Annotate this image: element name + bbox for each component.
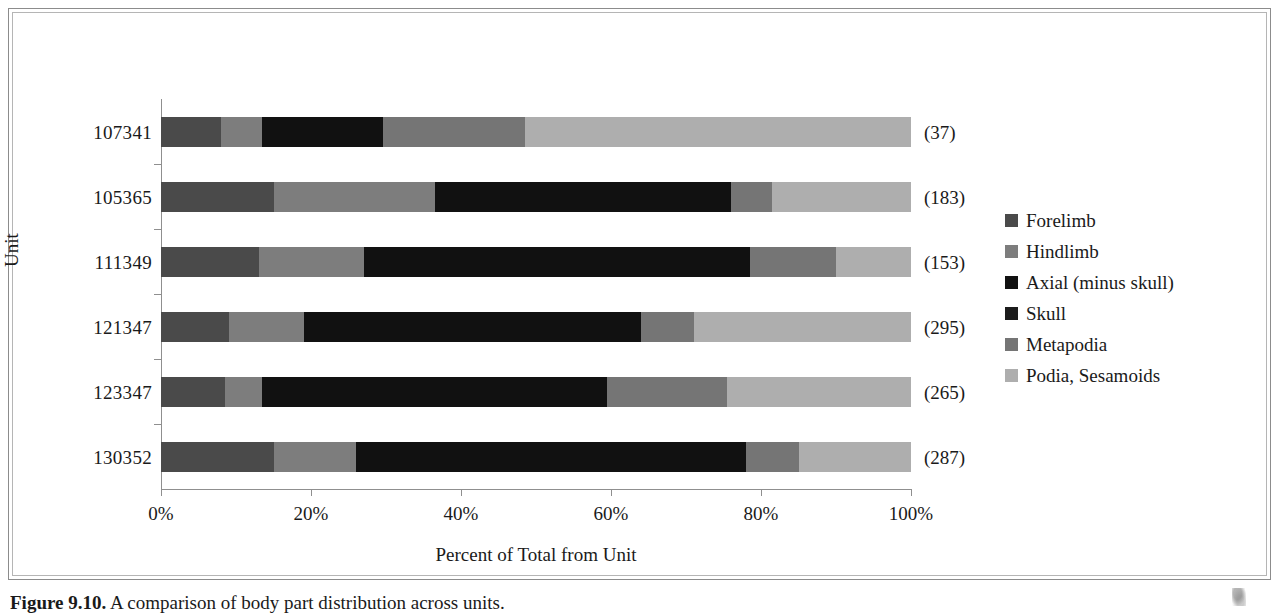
bar-segment (262, 377, 607, 407)
legend-swatch-icon (1005, 245, 1018, 258)
bar-row (161, 442, 911, 472)
bar-total-label: (153) (924, 253, 965, 272)
bar-segment (364, 247, 750, 277)
x-axis-line (161, 489, 912, 490)
bar-row (161, 182, 911, 212)
legend-swatch-icon (1005, 307, 1018, 320)
x-axis-tick-label: 60% (571, 503, 651, 525)
y-axis-tick-labels: 107341105365111349121347123347130352 (44, 99, 152, 489)
bar-segment (161, 312, 229, 342)
legend-item: Forelimb (1005, 205, 1255, 236)
y-axis-tick (154, 164, 162, 165)
y-axis-tick-label: 111349 (52, 253, 152, 272)
legend-label: Skull (1026, 304, 1066, 323)
bar-segment (525, 117, 911, 147)
legend-label: Hindlimb (1026, 242, 1099, 261)
x-axis-tick-label: 20% (271, 503, 351, 525)
bar-segment (221, 117, 262, 147)
x-axis-tick (311, 489, 312, 496)
legend-item: Metapodia (1005, 329, 1255, 360)
legend-label: Metapodia (1026, 335, 1107, 354)
bar-segment (694, 312, 912, 342)
y-axis-tick-label: 130352 (52, 448, 152, 467)
y-axis-tick (154, 294, 162, 295)
bar-row (161, 117, 911, 147)
bar-segment (641, 312, 694, 342)
y-axis-tick (154, 359, 162, 360)
bar-segment (225, 377, 263, 407)
y-axis-tick (154, 424, 162, 425)
bar-total-label: (37) (924, 123, 956, 142)
x-axis-tick-label: 80% (721, 503, 801, 525)
bar-row (161, 247, 911, 277)
legend-label: Forelimb (1026, 211, 1096, 230)
x-axis-tick-label: 0% (121, 503, 201, 525)
bar-segment (356, 442, 746, 472)
bar-segment (750, 247, 836, 277)
bar-segment (772, 182, 911, 212)
legend-swatch-icon (1005, 276, 1018, 289)
y-axis-tick-label: 107341 (52, 123, 152, 142)
bar-segment (259, 247, 364, 277)
y-axis-tick-label: 123347 (52, 383, 152, 402)
chart-legend: ForelimbHindlimbAxial (minus skull)Skull… (1005, 205, 1255, 391)
bar-segment (161, 377, 225, 407)
bar-segment (731, 182, 772, 212)
figure-frame: Unit 10734110536511134912134712334713035… (8, 8, 1271, 580)
bar-segment (274, 182, 435, 212)
bar-segment (383, 117, 525, 147)
x-axis-tick-label: 40% (421, 503, 501, 525)
legend-swatch-icon (1005, 338, 1018, 351)
bar-segment (161, 182, 274, 212)
x-axis-tick-label: 100% (871, 503, 951, 525)
legend-label: Podia, Sesamoids (1026, 366, 1160, 385)
bar-segment (229, 312, 304, 342)
bar-segment (262, 117, 383, 147)
legend-item: Hindlimb (1005, 236, 1255, 267)
y-axis-tick (154, 229, 162, 230)
x-axis-tick (611, 489, 612, 496)
y-axis-title: Unit (1, 233, 23, 267)
bar-segment (435, 182, 731, 212)
bar-total-label: (265) (924, 383, 965, 402)
legend-item: Podia, Sesamoids (1005, 360, 1255, 391)
bar-segment (727, 377, 911, 407)
bar-segment (799, 442, 912, 472)
x-axis-tick (911, 489, 912, 496)
bar-total-label: (287) (924, 448, 965, 467)
bar-total-labels: (37)(183)(153)(295)(265)(287) (924, 99, 1014, 489)
x-axis-title: Percent of Total from Unit (161, 544, 911, 566)
scan-artifact (1232, 588, 1246, 606)
bar-segment (836, 247, 911, 277)
figure-caption-text: A comparison of body part distribution a… (110, 592, 505, 613)
plot-area (161, 99, 911, 489)
legend-item: Axial (minus skull) (1005, 267, 1255, 298)
figure-caption: Figure 9.10. A comparison of body part d… (10, 592, 1110, 614)
legend-swatch-icon (1005, 214, 1018, 227)
legend-item: Skull (1005, 298, 1255, 329)
legend-swatch-icon (1005, 369, 1018, 382)
y-axis-tick-label: 105365 (52, 188, 152, 207)
y-axis-tick-label: 121347 (52, 318, 152, 337)
x-axis-tick (461, 489, 462, 496)
x-axis-tick (761, 489, 762, 496)
bar-segment (274, 442, 357, 472)
bar-total-label: (295) (924, 318, 965, 337)
bar-segment (161, 442, 274, 472)
bar-segment (607, 377, 727, 407)
bar-segment (304, 312, 642, 342)
x-axis-tick (161, 489, 162, 496)
bar-row (161, 377, 911, 407)
legend-label: Axial (minus skull) (1026, 273, 1174, 292)
bar-row (161, 312, 911, 342)
bar-total-label: (183) (924, 188, 965, 207)
bar-segment (161, 117, 221, 147)
bar-segment (746, 442, 799, 472)
bar-segment (161, 247, 259, 277)
figure-caption-label: Figure 9.10. (10, 592, 106, 613)
